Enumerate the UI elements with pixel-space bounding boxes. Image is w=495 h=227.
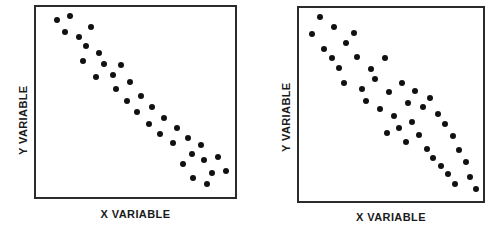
scatter-point — [157, 131, 163, 137]
scatter-point — [405, 100, 411, 106]
scatter-point — [409, 119, 415, 125]
scatter-point — [354, 54, 360, 60]
scatter-point — [412, 88, 418, 94]
scatter-point — [134, 109, 140, 115]
plot-frame-left — [34, 5, 237, 199]
scatter-point — [427, 95, 433, 101]
scatter-point — [463, 159, 469, 165]
x-axis-label-left: X VARIABLE — [34, 208, 237, 220]
scatter-point — [201, 157, 207, 163]
scatter-point — [438, 163, 444, 169]
scatter-point — [321, 46, 327, 52]
scatter-point — [467, 174, 473, 180]
scatter-point — [113, 86, 119, 92]
scatter-point — [384, 130, 390, 136]
scatter-point — [93, 74, 99, 80]
scatter-point — [399, 80, 405, 86]
scatter-point — [88, 24, 94, 30]
scatter-point — [317, 14, 323, 20]
scatter-point — [331, 24, 337, 30]
scatter-point — [80, 58, 86, 64]
scatterplot-panel-left: Y VARIABLE X VARIABLE — [0, 0, 247, 227]
scatter-point — [96, 50, 102, 56]
scatter-point — [209, 170, 215, 176]
scatter-point — [180, 161, 186, 167]
scatter-point — [435, 111, 441, 117]
scatter-point — [215, 154, 221, 160]
scatter-point — [391, 113, 397, 119]
scatter-point — [372, 76, 378, 82]
scatter-point — [185, 135, 191, 141]
scatter-point — [420, 104, 426, 110]
scatter-point — [445, 171, 451, 177]
scatter-point — [452, 181, 458, 187]
scatter-point — [146, 121, 152, 127]
scatter-point — [336, 65, 342, 71]
scatter-point — [386, 89, 392, 95]
scatter-point — [67, 13, 73, 19]
scatter-point — [138, 93, 144, 99]
scatter-point — [329, 55, 335, 61]
scatter-point — [382, 55, 388, 61]
scatter-point — [430, 155, 436, 161]
plot-area-left — [36, 7, 235, 197]
scatterplot-panel-right: Y VARIABLE X VARIABLE — [248, 0, 495, 227]
scatter-point — [189, 151, 195, 157]
scatter-point — [198, 142, 204, 148]
scatter-point — [149, 104, 155, 110]
x-axis-label-right: X VARIABLE — [297, 211, 485, 223]
scatter-point — [127, 79, 133, 85]
scatter-point — [309, 31, 315, 37]
scatter-point — [341, 80, 347, 86]
scatter-point — [424, 146, 430, 152]
scatter-point — [363, 98, 369, 104]
scatter-point — [416, 132, 422, 138]
scatter-point — [396, 125, 402, 131]
scatter-point — [403, 139, 409, 145]
plot-frame-right — [297, 6, 485, 203]
scatter-point — [83, 43, 89, 49]
scatter-point — [204, 181, 210, 187]
scatter-point — [174, 125, 180, 131]
scatter-point — [377, 106, 383, 112]
scatter-point — [359, 86, 365, 92]
scatter-point — [368, 66, 374, 72]
scatter-point — [223, 168, 229, 174]
scatter-point — [351, 30, 357, 36]
plot-area-right — [299, 8, 483, 201]
y-axis-label-right: Y VARIABLE — [280, 82, 292, 152]
scatter-point — [442, 121, 448, 127]
scatter-point — [76, 34, 82, 40]
scatter-point — [343, 40, 349, 46]
scatter-point — [118, 62, 124, 68]
two-scatterplot-figure: Y VARIABLE X VARIABLE Y VARIABLE X VARIA… — [0, 0, 495, 227]
scatter-point — [124, 98, 130, 104]
scatter-point — [161, 115, 167, 121]
scatter-point — [473, 186, 479, 192]
scatter-point — [456, 147, 462, 153]
scatter-point — [110, 72, 116, 78]
scatter-point — [450, 133, 456, 139]
y-axis-label-left: Y VARIABLE — [17, 85, 29, 155]
scatter-point — [170, 140, 176, 146]
scatter-point — [62, 29, 68, 35]
scatter-point — [101, 61, 107, 67]
scatter-point — [190, 175, 196, 181]
scatter-point — [54, 17, 60, 23]
